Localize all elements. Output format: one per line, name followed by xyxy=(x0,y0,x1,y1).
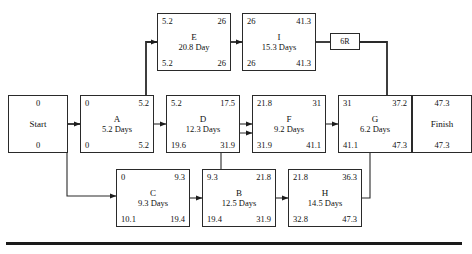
node-h-name: H xyxy=(322,189,329,198)
node-d-ef: 17.5 xyxy=(220,99,235,108)
node-e-duration: 20.8 Day xyxy=(178,43,209,52)
node-h-ls: 32.8 xyxy=(293,215,308,224)
node-i-lf: 41.3 xyxy=(296,59,311,68)
node-g-name: G xyxy=(372,115,379,124)
node-b[interactable]: 9.3 21.8 B 12.5 Days 19.4 31.9 xyxy=(202,169,276,227)
node-g-early-row: 31 37.2 xyxy=(339,96,411,110)
node-e[interactable]: 5.2 26 E 20.8 Day 5.2 26 xyxy=(157,13,231,71)
node-g-ls: 41.1 xyxy=(343,141,358,150)
footer-rule xyxy=(6,242,462,245)
node-i-name: I xyxy=(278,33,281,42)
node-i-duration: 15.3 Days xyxy=(262,43,296,52)
node-f-late-row: 31.9 41.1 xyxy=(253,138,325,152)
node-d-body: D 12.3 Days xyxy=(167,110,239,138)
node-f-ls: 31.9 xyxy=(257,141,272,150)
node-c-body: C 9.3 Days xyxy=(117,184,189,212)
node-i-es: 26 xyxy=(247,17,256,26)
node-b-early-row: 9.3 21.8 xyxy=(203,170,275,184)
node-f-duration: 9.2 Days xyxy=(274,125,304,134)
node-i-early-row: 26 41.3 xyxy=(243,14,315,28)
node-d-ls: 19.6 xyxy=(171,141,186,150)
node-f-es: 21.8 xyxy=(257,99,272,108)
node-e-body: E 20.8 Day xyxy=(158,28,230,56)
node-d-duration: 12.3 Days xyxy=(186,125,220,134)
node-g-duration: 6.2 Days xyxy=(360,125,390,134)
node-c-ef: 9.3 xyxy=(174,173,185,182)
node-e-ls: 5.2 xyxy=(162,59,173,68)
node-i-late-row: 26 41.3 xyxy=(243,56,315,70)
node-e-es: 5.2 xyxy=(162,17,173,26)
node-finish-early: 47.3 xyxy=(435,99,450,108)
node-finish-late: 47.3 xyxy=(435,141,450,150)
node-c[interactable]: 0 9.3 C 9.3 Days 10.1 19.4 xyxy=(116,169,190,227)
node-i-body: I 15.3 Days xyxy=(243,28,315,56)
node-a-name: A xyxy=(114,115,121,124)
node-b-ef: 21.8 xyxy=(256,173,271,182)
node-b-ls: 19.4 xyxy=(207,215,222,224)
node-start[interactable]: 0 Start 0 xyxy=(8,95,68,153)
node-a-ls: 0 xyxy=(85,141,89,150)
node-c-es: 0 xyxy=(121,173,125,182)
node-6r[interactable]: 6R xyxy=(330,33,360,50)
node-f-body: F 9.2 Days xyxy=(253,110,325,138)
node-b-name: B xyxy=(236,189,242,198)
node-f-lf: 41.1 xyxy=(306,141,321,150)
node-b-body: B 12.5 Days xyxy=(203,184,275,212)
node-h[interactable]: 21.8 36.3 H 14.5 Days 32.8 47.3 xyxy=(288,169,362,227)
node-start-late: 0 xyxy=(36,141,40,150)
node-g-lf: 47.3 xyxy=(392,141,407,150)
node-a[interactable]: 0 5.2 A 5.2 Days 0 5.2 xyxy=(80,95,154,153)
node-b-late-row: 19.4 31.9 xyxy=(203,212,275,226)
node-a-late-row: 0 5.2 xyxy=(81,138,153,152)
node-h-ef: 36.3 xyxy=(342,173,357,182)
node-b-es: 9.3 xyxy=(207,173,218,182)
node-e-name: E xyxy=(191,33,197,42)
node-a-ef: 5.2 xyxy=(138,99,149,108)
node-e-lf: 26 xyxy=(218,59,227,68)
node-c-name: C xyxy=(150,189,156,198)
node-i[interactable]: 26 41.3 I 15.3 Days 26 41.3 xyxy=(242,13,316,71)
node-e-late-row: 5.2 26 xyxy=(158,56,230,70)
node-f-early-row: 21.8 31 xyxy=(253,96,325,110)
node-h-body: H 14.5 Days xyxy=(289,184,361,212)
node-d-lf: 31.9 xyxy=(220,141,235,150)
node-d-early-row: 5.2 17.5 xyxy=(167,96,239,110)
node-a-lf: 5.2 xyxy=(138,141,149,150)
node-g-ef: 37.2 xyxy=(392,99,407,108)
node-f[interactable]: 21.8 31 F 9.2 Days 31.9 41.1 xyxy=(252,95,326,153)
node-h-duration: 14.5 Days xyxy=(308,199,342,208)
node-d-name: D xyxy=(200,115,207,124)
node-c-duration: 9.3 Days xyxy=(138,199,168,208)
node-d-es: 5.2 xyxy=(171,99,182,108)
node-b-duration: 12.5 Days xyxy=(222,199,256,208)
node-i-ls: 26 xyxy=(247,59,256,68)
node-finish-name: Finish xyxy=(431,120,454,129)
node-e-early-row: 5.2 26 xyxy=(158,14,230,28)
node-b-lf: 31.9 xyxy=(256,215,271,224)
node-a-body: A 5.2 Days xyxy=(81,110,153,138)
node-g-body: G 6.2 Days xyxy=(339,110,411,138)
node-f-ef: 31 xyxy=(313,99,322,108)
node-a-duration: 5.2 Days xyxy=(102,125,132,134)
node-g[interactable]: 31 37.2 G 6.2 Days 41.1 47.3 xyxy=(338,95,412,153)
node-start-early: 0 xyxy=(36,99,40,108)
node-h-late-row: 32.8 47.3 xyxy=(289,212,361,226)
node-c-late-row: 10.1 19.4 xyxy=(117,212,189,226)
node-a-es: 0 xyxy=(85,99,89,108)
node-finish[interactable]: 47.3 Finish 47.3 xyxy=(412,95,472,153)
node-start-name: Start xyxy=(30,120,47,129)
node-g-late-row: 41.1 47.3 xyxy=(339,138,411,152)
node-h-early-row: 21.8 36.3 xyxy=(289,170,361,184)
node-e-ef: 26 xyxy=(218,17,227,26)
node-c-early-row: 0 9.3 xyxy=(117,170,189,184)
node-h-es: 21.8 xyxy=(293,173,308,182)
node-f-name: F xyxy=(286,115,291,124)
node-g-es: 31 xyxy=(343,99,352,108)
node-d-late-row: 19.6 31.9 xyxy=(167,138,239,152)
node-c-lf: 19.4 xyxy=(170,215,185,224)
node-h-lf: 47.3 xyxy=(342,215,357,224)
node-a-early-row: 0 5.2 xyxy=(81,96,153,110)
node-i-ef: 41.3 xyxy=(296,17,311,26)
node-d[interactable]: 5.2 17.5 D 12.3 Days 19.6 31.9 xyxy=(166,95,240,153)
